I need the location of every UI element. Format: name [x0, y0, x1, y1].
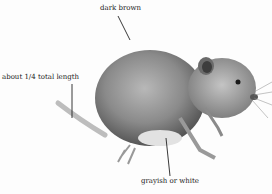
label-belly-color: grayish or white: [141, 177, 199, 185]
vole-illustration: dark brown about 1/4 total length grayis…: [0, 0, 272, 194]
label-tail-length: about 1/4 total length: [2, 73, 79, 81]
hind-foot: [118, 145, 135, 164]
vole-drawing: [0, 0, 272, 194]
leader-line-back: [118, 16, 130, 40]
eye: [236, 80, 241, 85]
belly: [138, 130, 182, 146]
label-dark-brown: dark brown: [100, 4, 141, 12]
